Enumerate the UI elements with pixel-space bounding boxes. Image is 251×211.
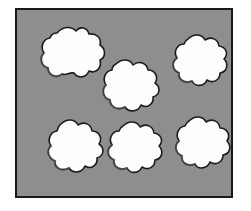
- blob-top-left: [41, 27, 104, 76]
- blob-bottom-center: [108, 122, 162, 172]
- blob-bottom-right: [176, 117, 230, 168]
- figure-root: [0, 0, 251, 211]
- field-frame: [15, 8, 233, 198]
- blob-top-right: [173, 35, 227, 85]
- blob-top-center: [103, 60, 159, 111]
- blob-layer: [17, 10, 231, 196]
- blob-canvas: [17, 10, 231, 196]
- blob-bottom-left: [48, 120, 103, 172]
